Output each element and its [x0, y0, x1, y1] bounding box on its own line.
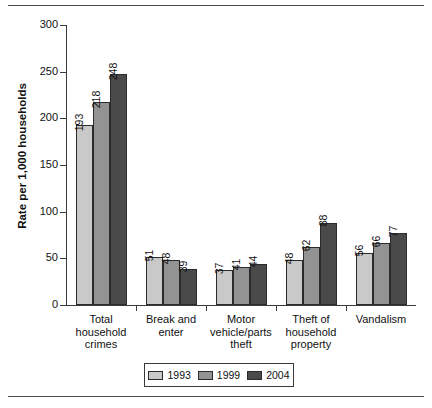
- bar-group: 514839: [146, 25, 197, 305]
- y-axis-tick-label: 200: [18, 112, 58, 123]
- bar: 41: [233, 267, 250, 305]
- bar-value-label: 88: [318, 215, 329, 227]
- bar: 218: [93, 102, 110, 305]
- bar: 77: [390, 233, 407, 305]
- bar: 56: [356, 253, 373, 305]
- legend-item[interactable]: 1993: [148, 370, 190, 381]
- legend-item[interactable]: 1999: [198, 370, 240, 381]
- bar-chart-figure: Rate per 1,000 households 05010015020025…: [0, 0, 432, 408]
- bar: 88: [320, 223, 337, 305]
- bar-value-label: 77: [388, 225, 399, 237]
- bar-value-label: 218: [91, 91, 102, 109]
- legend-swatch-icon: [247, 371, 262, 380]
- x-axis-category-label: Vandalism: [346, 313, 416, 326]
- bar-value-label: 44: [248, 256, 259, 268]
- y-axis-tick-label: 250: [18, 66, 58, 77]
- legend-label: 2004: [266, 370, 289, 381]
- x-axis-tick: [136, 305, 137, 311]
- y-axis-tick-label: 300: [18, 19, 58, 30]
- x-axis-tick: [206, 305, 207, 311]
- bar-value-label: 56: [354, 245, 365, 257]
- bar: 44: [250, 264, 267, 305]
- legend-swatch-icon: [198, 371, 213, 380]
- bar-value-label: 51: [144, 250, 155, 262]
- x-axis-tick: [276, 305, 277, 311]
- x-axis-line: [66, 305, 416, 306]
- bar: 248: [110, 74, 127, 305]
- x-axis-category-label: Theft ofhouseholdproperty: [276, 313, 346, 351]
- category-label-line: Total: [66, 313, 136, 326]
- x-axis-category-label: Break andenter: [136, 313, 206, 338]
- legend-swatch-icon: [148, 371, 163, 380]
- bar-group: 374144: [216, 25, 267, 305]
- bar: 37: [216, 270, 233, 305]
- category-label-line: Vandalism: [346, 313, 416, 326]
- legend-label: 1999: [217, 370, 240, 381]
- category-label-line: household: [276, 326, 346, 339]
- bar-group: 193218248: [76, 25, 127, 305]
- bar-value-label: 37: [214, 263, 225, 275]
- x-axis-tick: [346, 305, 347, 311]
- bottom-divider: [8, 396, 424, 397]
- legend-label: 1993: [167, 370, 190, 381]
- legend-item[interactable]: 2004: [247, 370, 289, 381]
- bar-value-label: 248: [108, 63, 119, 81]
- bar: 51: [146, 257, 163, 305]
- category-label-line: household: [66, 326, 136, 339]
- top-divider: [8, 5, 424, 6]
- y-axis-tick-label: 100: [18, 206, 58, 217]
- bar-group: 566677: [356, 25, 407, 305]
- category-label-line: Break and: [136, 313, 206, 326]
- category-label-line: vehicle/parts: [206, 326, 276, 339]
- bar-value-label: 41: [231, 259, 242, 271]
- bar: 193: [76, 125, 93, 305]
- plot-area: 193218248514839374144486288566677: [66, 25, 416, 305]
- bar-value-label: 66: [371, 236, 382, 248]
- category-label-line: crimes: [66, 338, 136, 351]
- bar-value-label: 48: [284, 252, 295, 264]
- category-label-line: Theft of: [276, 313, 346, 326]
- x-axis-category-label: Totalhouseholdcrimes: [66, 313, 136, 351]
- category-label-line: theft: [206, 338, 276, 351]
- bar-value-label: 39: [178, 261, 189, 273]
- category-label-line: property: [276, 338, 346, 351]
- bar: 62: [303, 247, 320, 305]
- y-axis-tick-label: 150: [18, 159, 58, 170]
- bar-group: 486288: [286, 25, 337, 305]
- bar: 48: [286, 260, 303, 305]
- chart-legend: 199319992004: [144, 363, 294, 387]
- x-axis-category-label: Motorvehicle/partstheft: [206, 313, 276, 351]
- bar-value-label: 193: [74, 114, 85, 132]
- y-axis-tick-label: 0: [18, 299, 58, 310]
- category-label-line: Motor: [206, 313, 276, 326]
- bar: 66: [373, 243, 390, 305]
- bar-value-label: 62: [301, 239, 312, 251]
- category-label-line: enter: [136, 326, 206, 339]
- bar-value-label: 48: [161, 252, 172, 264]
- bar: 39: [180, 269, 197, 305]
- y-axis-tick-label: 50: [18, 252, 58, 263]
